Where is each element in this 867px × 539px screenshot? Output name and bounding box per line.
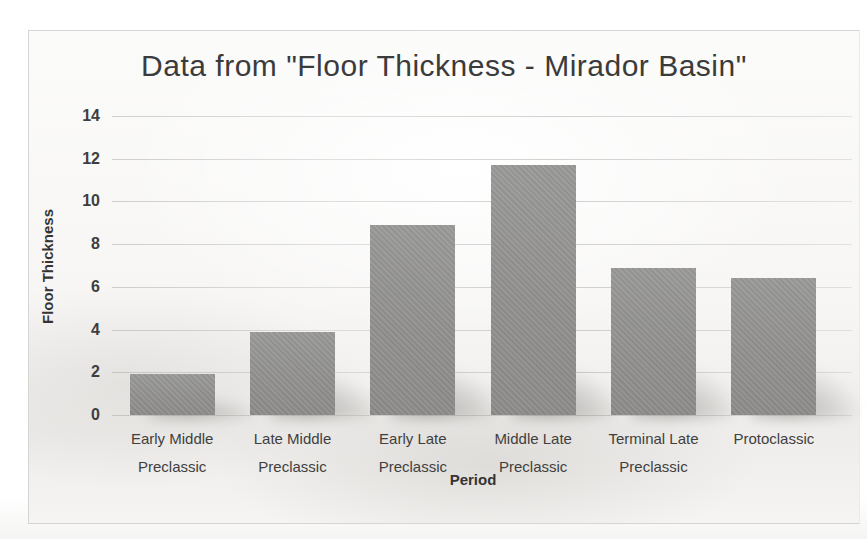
bar: [731, 278, 816, 415]
gridline: [112, 116, 852, 117]
y-tick-label: 6: [58, 278, 100, 296]
bar: [611, 268, 696, 415]
bar: [130, 374, 215, 415]
y-tick-label: 12: [58, 150, 100, 168]
y-tick-label: 8: [58, 235, 100, 253]
plot-area: 02468101214Early Middle PreclassicLate M…: [112, 116, 834, 415]
bar: [250, 332, 335, 415]
gridline: [112, 159, 852, 160]
bar: [370, 225, 455, 415]
gridline: [112, 201, 852, 202]
y-tick-label: 0: [58, 406, 100, 424]
y-axis-title: Floor Thickness: [39, 177, 56, 357]
x-axis-title: Period: [112, 471, 834, 488]
bar: [491, 165, 576, 415]
chart-frame: Data from "Floor Thickness - Mirador Bas…: [28, 30, 860, 524]
gridline: [112, 244, 852, 245]
chart-title: Data from "Floor Thickness - Mirador Bas…: [29, 49, 859, 83]
y-tick-label: 4: [58, 321, 100, 339]
x-category-label: Protoclassic: [713, 425, 835, 453]
y-tick-label: 14: [58, 107, 100, 125]
y-tick-label: 10: [58, 192, 100, 210]
scanned-page: Data from "Floor Thickness - Mirador Bas…: [0, 0, 867, 539]
y-tick-label: 2: [58, 363, 100, 381]
